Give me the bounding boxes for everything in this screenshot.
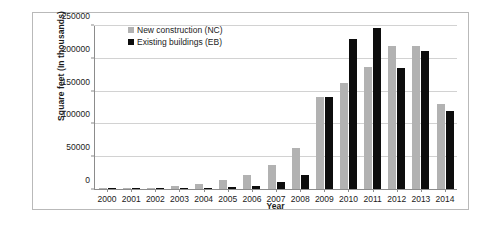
bar-nc-2001[interactable] — [123, 188, 131, 189]
x-axis-title: Year — [94, 201, 457, 211]
bar-group: 2009 — [312, 26, 336, 189]
bar-nc-2011[interactable] — [364, 67, 372, 189]
plot-area: 050000100000150000200000250000 200020012… — [94, 26, 457, 190]
y-tick-label: 200000 — [62, 44, 90, 54]
y-tick-label: 250000 — [62, 11, 90, 21]
bar-group: 2013 — [409, 26, 433, 189]
bar-nc-2000[interactable] — [99, 188, 107, 189]
bar-group: 2008 — [288, 26, 312, 189]
bar-nc-2005[interactable] — [219, 180, 227, 189]
y-axis-title: Square feet (In thousands) — [56, 0, 66, 146]
x-tick-mark — [179, 189, 180, 192]
bar-nc-2013[interactable] — [412, 46, 420, 189]
bar-group: 2003 — [167, 26, 191, 189]
y-tick-label: 0 — [85, 175, 90, 185]
bar-group: 2000 — [95, 26, 119, 189]
y-tick-label: 100000 — [62, 109, 90, 119]
bars-layer: 2000200120022003200420052006200720082009… — [95, 26, 457, 189]
x-tick-mark — [107, 189, 108, 192]
bar-nc-2004[interactable] — [195, 184, 203, 189]
bar-chart-figure: Square feet (In thousands) New construct… — [32, 12, 469, 210]
bar-nc-2003[interactable] — [171, 186, 179, 189]
x-tick-mark — [445, 189, 446, 192]
bar-eb-2003[interactable] — [180, 188, 188, 189]
bar-eb-2004[interactable] — [204, 188, 212, 189]
x-tick-mark — [348, 189, 349, 192]
bar-nc-2006[interactable] — [243, 175, 251, 189]
x-tick-mark — [228, 189, 229, 192]
bar-eb-2011[interactable] — [373, 28, 381, 189]
bar-nc-2010[interactable] — [340, 83, 348, 189]
bar-group: 2004 — [192, 26, 216, 189]
bar-group: 2001 — [119, 26, 143, 189]
x-tick-mark — [373, 189, 374, 192]
bar-group: 2006 — [240, 26, 264, 189]
x-tick-mark — [155, 189, 156, 192]
x-tick-mark — [252, 189, 253, 192]
bar-eb-2010[interactable] — [349, 39, 357, 189]
bar-nc-2008[interactable] — [292, 148, 300, 189]
bar-eb-2000[interactable] — [108, 188, 116, 189]
bar-eb-2006[interactable] — [252, 186, 260, 189]
x-tick-mark — [204, 189, 205, 192]
bar-group: 2010 — [336, 26, 360, 189]
bar-eb-2009[interactable] — [325, 97, 333, 189]
bar-eb-2007[interactable] — [277, 182, 285, 189]
x-tick-mark — [300, 189, 301, 192]
bar-eb-2014[interactable] — [446, 111, 454, 189]
x-tick-mark — [421, 189, 422, 192]
bar-group: 2007 — [264, 26, 288, 189]
bar-eb-2012[interactable] — [397, 68, 405, 189]
bar-group: 2002 — [143, 26, 167, 189]
bar-eb-2008[interactable] — [301, 175, 309, 189]
bar-group: 2011 — [361, 26, 385, 189]
bar-nc-2007[interactable] — [268, 165, 276, 189]
bar-nc-2002[interactable] — [147, 188, 155, 189]
bar-nc-2014[interactable] — [437, 104, 445, 189]
bar-nc-2009[interactable] — [316, 97, 324, 189]
x-tick-mark — [131, 189, 132, 192]
bar-group: 2014 — [433, 26, 457, 189]
bar-group: 2012 — [385, 26, 409, 189]
bar-eb-2013[interactable] — [421, 51, 429, 189]
x-tick-mark — [276, 189, 277, 192]
bar-eb-2002[interactable] — [156, 188, 164, 189]
bar-nc-2012[interactable] — [388, 46, 396, 189]
x-tick-mark — [397, 189, 398, 192]
y-tick-label: 150000 — [62, 77, 90, 87]
bar-eb-2005[interactable] — [228, 187, 236, 189]
bar-eb-2001[interactable] — [132, 188, 140, 189]
bar-group: 2005 — [216, 26, 240, 189]
y-tick-label: 50000 — [66, 142, 90, 152]
x-tick-mark — [324, 189, 325, 192]
